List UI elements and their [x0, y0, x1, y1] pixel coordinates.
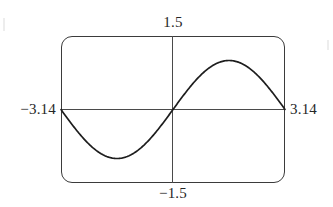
- scan-artifact: [3, 18, 5, 31]
- axis-label-x-max: 3.14: [290, 102, 317, 117]
- scan-artifact: [327, 40, 329, 50]
- graphing-calculator-figure: 1.5 −1.5 −3.14 3.14: [0, 0, 333, 207]
- axis-label-y-min: −1.5: [159, 186, 187, 201]
- axis-label-y-max: 1.5: [163, 15, 182, 30]
- x-axis: [61, 109, 285, 110]
- y-axis: [172, 36, 173, 183]
- axis-label-x-min: −3.14: [20, 102, 56, 117]
